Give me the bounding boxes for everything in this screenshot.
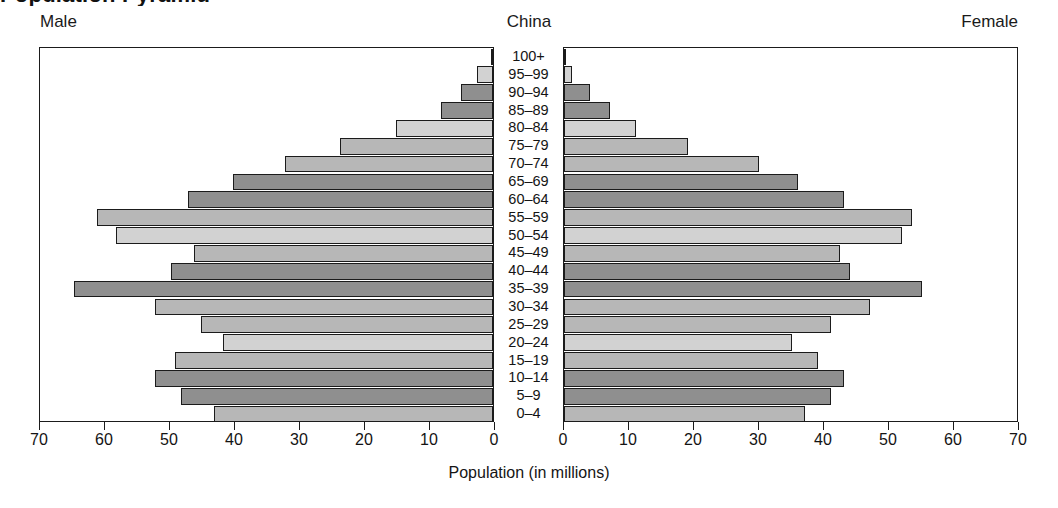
bar-row-male — [40, 227, 493, 244]
age-group-label: 75–79 — [494, 138, 563, 153]
age-group-label: 35–39 — [494, 281, 563, 296]
bar-female-55-59 — [564, 209, 912, 226]
bar-male-60-64 — [188, 191, 494, 208]
axis-tick-female-40 — [823, 422, 824, 430]
bar-row-female — [564, 102, 1017, 119]
axis-tick-female-20 — [693, 422, 694, 430]
chart-country-title: China — [0, 12, 1058, 32]
bar-female-85-89 — [564, 102, 610, 119]
axis-tick-label-female-0: 0 — [543, 431, 583, 449]
bar-female-20-24 — [564, 334, 792, 351]
age-group-label: 85–89 — [494, 103, 563, 118]
male-plot-panel — [39, 47, 494, 422]
axis-tick-male-70 — [39, 422, 40, 430]
axis-tick-male-60 — [104, 422, 105, 430]
axis-tick-label-male-0: 0 — [474, 431, 514, 449]
bar-male-100+ — [491, 49, 493, 66]
axis-tick-label-male-10: 10 — [409, 431, 449, 449]
bar-female-0-4 — [564, 406, 805, 423]
bar-male-30-34 — [155, 299, 493, 316]
bar-row-female — [564, 156, 1017, 173]
bar-female-90-94 — [564, 84, 590, 101]
bar-female-40-44 — [564, 263, 850, 280]
bar-row-male — [40, 281, 493, 298]
axis-tick-label-male-20: 20 — [344, 431, 384, 449]
age-group-label: 70–74 — [494, 156, 563, 171]
bar-female-30-34 — [564, 299, 870, 316]
bar-row-male — [40, 120, 493, 137]
chart-header: Male China Female — [0, 12, 1058, 38]
bar-row-male — [40, 191, 493, 208]
bar-row-female — [564, 334, 1017, 351]
axis-tick-male-20 — [364, 422, 365, 430]
axis-tick-male-50 — [169, 422, 170, 430]
bar-female-25-29 — [564, 316, 831, 333]
bar-row-male — [40, 102, 493, 119]
bar-male-55-59 — [97, 209, 494, 226]
bar-female-95-99 — [564, 66, 572, 83]
bar-row-male — [40, 316, 493, 333]
bar-female-65-69 — [564, 174, 798, 191]
bar-row-female — [564, 209, 1017, 226]
bar-female-10-14 — [564, 370, 844, 387]
bar-male-95-99 — [477, 66, 493, 83]
axis-tick-label-male-50: 50 — [149, 431, 189, 449]
bar-row-female — [564, 120, 1017, 137]
bar-male-80-84 — [396, 120, 494, 137]
bar-row-male — [40, 406, 493, 423]
bar-row-male — [40, 174, 493, 191]
bar-male-5-9 — [181, 388, 493, 405]
age-group-label: 40–44 — [494, 263, 563, 278]
bar-row-male — [40, 66, 493, 83]
bar-row-female — [564, 281, 1017, 298]
age-group-label: 50–54 — [494, 228, 563, 243]
age-group-label: 60–64 — [494, 192, 563, 207]
axis-tick-label-female-30: 30 — [738, 431, 778, 449]
bar-row-male — [40, 263, 493, 280]
bar-male-40-44 — [171, 263, 493, 280]
axis-tick-female-30 — [758, 422, 759, 430]
bar-male-25-29 — [201, 316, 494, 333]
bar-row-female — [564, 299, 1017, 316]
axis-tick-male-0 — [494, 422, 495, 430]
axis-tick-label-female-60: 60 — [933, 431, 973, 449]
bar-male-35-39 — [74, 281, 493, 298]
x-axis-title: Population (in millions) — [0, 464, 1058, 482]
bar-row-male — [40, 138, 493, 155]
bar-row-female — [564, 370, 1017, 387]
bar-row-female — [564, 245, 1017, 262]
axis-tick-label-male-70: 70 — [19, 431, 59, 449]
bar-row-male — [40, 334, 493, 351]
axis-tick-label-female-20: 20 — [673, 431, 713, 449]
bar-male-65-69 — [233, 174, 493, 191]
bar-female-70-74 — [564, 156, 759, 173]
bar-male-15-19 — [175, 352, 494, 369]
bar-row-female — [564, 406, 1017, 423]
bar-male-75-79 — [340, 138, 493, 155]
bar-male-70-74 — [285, 156, 493, 173]
axis-tick-male-40 — [234, 422, 235, 430]
population-pyramid-chart: 100+95–9990–9485–8980–8475–7970–7465–696… — [0, 47, 1058, 422]
bar-row-male — [40, 49, 493, 66]
bar-female-35-39 — [564, 281, 922, 298]
axis-tick-female-70 — [1018, 422, 1019, 430]
axis-tick-label-female-40: 40 — [803, 431, 843, 449]
page-title: Population Pyramid — [0, 0, 520, 6]
axis-tick-label-female-50: 50 — [868, 431, 908, 449]
bar-row-female — [564, 227, 1017, 244]
bar-row-female — [564, 84, 1017, 101]
age-group-label: 45–49 — [494, 245, 563, 260]
legend-label-female: Female — [961, 12, 1018, 32]
axis-tick-female-10 — [628, 422, 629, 430]
bar-female-50-54 — [564, 227, 902, 244]
age-group-label: 20–24 — [494, 335, 563, 350]
female-plot-panel — [563, 47, 1018, 422]
bar-row-female — [564, 191, 1017, 208]
age-group-label: 0–4 — [494, 406, 563, 421]
bar-male-50-54 — [116, 227, 493, 244]
bar-row-male — [40, 388, 493, 405]
age-group-label: 15–19 — [494, 353, 563, 368]
bar-row-female — [564, 388, 1017, 405]
bar-female-100+ — [564, 49, 566, 66]
bar-male-0-4 — [214, 406, 494, 423]
